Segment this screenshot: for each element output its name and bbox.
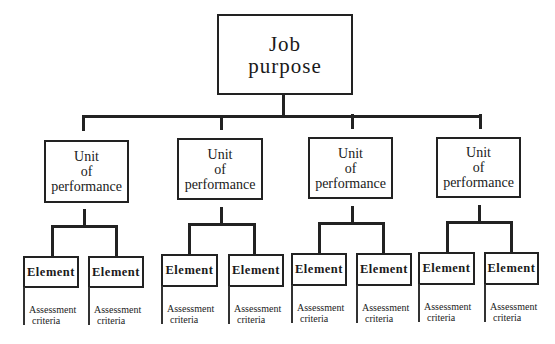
assessment-criteria: Assessment criteria bbox=[94, 304, 141, 326]
unit-of-performance-box-2: Unit of performance bbox=[177, 138, 263, 200]
unit-line1: Unit bbox=[74, 149, 99, 164]
unit-line1: Unit bbox=[208, 147, 233, 162]
criteria-line2: criteria bbox=[424, 312, 471, 323]
element-label: Element bbox=[295, 262, 343, 277]
criteria-line1: Assessment bbox=[490, 301, 537, 312]
unit-line3: performance bbox=[185, 177, 256, 192]
criteria-line1: Assessment bbox=[94, 304, 141, 315]
unit-1-drop-b bbox=[115, 225, 118, 256]
unit-line1: Unit bbox=[466, 145, 491, 160]
unit-4-drop-b bbox=[510, 221, 513, 252]
criteria-side-line bbox=[291, 285, 293, 323]
criteria-line2: criteria bbox=[167, 314, 214, 325]
criteria-line2: criteria bbox=[234, 314, 281, 325]
criteria-line2: criteria bbox=[297, 313, 344, 324]
unit-4-bar bbox=[446, 221, 513, 224]
job-purpose-line2: purpose bbox=[248, 55, 322, 77]
unit-1-bar bbox=[51, 225, 118, 228]
assessment-criteria: Assessment criteria bbox=[490, 301, 537, 323]
unit-line3: performance bbox=[443, 175, 514, 190]
element-box: Element bbox=[88, 256, 144, 288]
unit-2-bar bbox=[188, 223, 256, 226]
element-box: Element bbox=[356, 253, 412, 286]
element-box: Element bbox=[291, 253, 347, 286]
assessment-criteria: Assessment criteria bbox=[167, 303, 214, 325]
assessment-criteria: Assessment criteria bbox=[29, 304, 76, 326]
unit-drop-2 bbox=[220, 115, 223, 130]
unit-line2: of bbox=[81, 164, 93, 179]
criteria-line1: Assessment bbox=[29, 304, 76, 315]
assessment-criteria: Assessment criteria bbox=[424, 301, 471, 323]
unit-line3: performance bbox=[315, 176, 386, 191]
criteria-line2: criteria bbox=[29, 315, 76, 326]
assessment-criteria: Assessment criteria bbox=[234, 303, 281, 325]
criteria-side-line bbox=[356, 285, 358, 323]
unit-line2: of bbox=[345, 161, 357, 176]
criteria-line1: Assessment bbox=[424, 301, 471, 312]
unit-2-drop-a bbox=[188, 223, 191, 254]
criteria-side-line bbox=[228, 286, 230, 324]
unit-2-drop-b bbox=[253, 223, 256, 254]
unit-drop-1 bbox=[82, 115, 85, 131]
unit-of-performance-box-3: Unit of performance bbox=[308, 137, 393, 199]
criteria-line2: criteria bbox=[362, 313, 409, 324]
element-label: Element bbox=[27, 265, 75, 280]
criteria-side-line bbox=[161, 286, 163, 324]
unit-of-performance-box-1: Unit of performance bbox=[44, 140, 129, 203]
unit-3-drop-b bbox=[382, 222, 385, 253]
element-label: Element bbox=[488, 261, 536, 276]
assessment-criteria: Assessment criteria bbox=[362, 302, 409, 324]
assessment-criteria: Assessment criteria bbox=[297, 302, 344, 324]
element-box: Element bbox=[484, 252, 539, 285]
unit-3-bar bbox=[318, 222, 385, 225]
unit-line3: performance bbox=[51, 179, 122, 194]
job-purpose-box: Job purpose bbox=[217, 14, 353, 95]
unit-line2: of bbox=[473, 160, 485, 175]
job-purpose-line1: Job bbox=[269, 33, 301, 55]
criteria-line2: criteria bbox=[490, 312, 537, 323]
element-box: Element bbox=[23, 256, 79, 288]
element-label: Element bbox=[360, 262, 408, 277]
unit-1-drop-a bbox=[51, 225, 54, 256]
criteria-line1: Assessment bbox=[297, 302, 344, 313]
element-label: Element bbox=[423, 261, 471, 276]
unit-line2: of bbox=[214, 162, 226, 177]
unit-of-performance-box-4: Unit of performance bbox=[436, 137, 521, 198]
element-label: Element bbox=[232, 263, 280, 278]
element-label: Element bbox=[166, 263, 214, 278]
criteria-side-line bbox=[418, 284, 420, 322]
unit-line1: Unit bbox=[338, 146, 363, 161]
criteria-side-line bbox=[88, 287, 90, 325]
criteria-side-line bbox=[23, 287, 25, 325]
root-horizontal-bar bbox=[82, 115, 482, 118]
criteria-line1: Assessment bbox=[362, 302, 409, 313]
unit-drop-4 bbox=[479, 114, 482, 129]
criteria-side-line bbox=[484, 284, 486, 322]
criteria-line1: Assessment bbox=[167, 303, 214, 314]
criteria-line2: criteria bbox=[94, 315, 141, 326]
unit-drop-3 bbox=[351, 114, 354, 129]
element-box: Element bbox=[418, 252, 475, 285]
element-box: Element bbox=[161, 254, 218, 287]
unit-4-drop-a bbox=[446, 221, 449, 252]
criteria-line1: Assessment bbox=[234, 303, 281, 314]
unit-3-drop-a bbox=[318, 222, 321, 253]
element-box: Element bbox=[228, 254, 284, 287]
element-label: Element bbox=[92, 265, 140, 280]
